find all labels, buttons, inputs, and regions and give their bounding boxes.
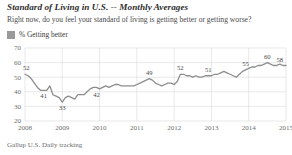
data-point-label: 33 <box>59 104 66 111</box>
data-point-label: 58 <box>276 56 283 63</box>
y-axis-tick-label: 60 <box>14 59 22 67</box>
data-point-label: 60 <box>264 53 271 60</box>
x-axis-tick-label: 2012 <box>167 124 182 132</box>
x-axis-tick-label: 2008 <box>18 124 33 132</box>
page-title: Standard of Living in U.S. -- Monthly Av… <box>7 2 188 12</box>
chart-legend: % Getting better <box>7 30 68 39</box>
x-axis-tick-label: 2010 <box>93 124 108 132</box>
y-axis-tick-label: 50 <box>14 74 22 82</box>
y-axis-tick-label: 70 <box>14 44 22 52</box>
data-point-label: 42 <box>93 91 100 98</box>
data-point-label: 51 <box>205 66 212 73</box>
x-axis-tick-label: 2015 <box>279 124 292 132</box>
x-axis-tick-label: 2013 <box>204 124 219 132</box>
x-axis-tick-label: 2009 <box>55 124 70 132</box>
y-axis-tick-label: 40 <box>14 88 22 96</box>
line-chart-svg: 2030405060702008200920102011201220132014… <box>0 42 292 137</box>
chart-source: Gallup U.S. Daily tracking <box>7 141 82 149</box>
data-point-label: 49 <box>146 69 153 76</box>
legend-label: % Getting better <box>19 30 68 39</box>
data-point-label: 52 <box>177 64 184 71</box>
chart-subtitle: Right now, do you feel your standard of … <box>7 15 251 24</box>
data-point-label: 55 <box>242 60 249 67</box>
chart-plot-area: 2030405060702008200920102011201220132014… <box>0 42 292 137</box>
legend-swatch-icon <box>7 31 15 39</box>
data-series-line <box>25 63 286 102</box>
y-axis-tick-label: 30 <box>14 103 22 111</box>
x-axis-tick-label: 2014 <box>242 124 257 132</box>
chart-figure: Standard of Living in U.S. -- Monthly Av… <box>0 0 292 155</box>
data-point-label: 52 <box>23 64 30 71</box>
x-axis-tick-label: 2011 <box>130 124 144 132</box>
data-point-label: 41 <box>40 92 47 99</box>
